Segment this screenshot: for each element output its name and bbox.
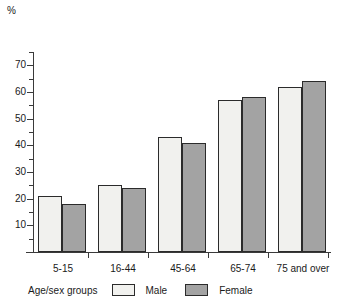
legend-label: Male: [146, 285, 168, 296]
y-tick-minor: [29, 105, 34, 106]
y-tick-major: [27, 225, 34, 226]
plot-area: 10203040506070 5-1516-4445-6465-7475 and…: [0, 0, 342, 306]
y-tick-major: [27, 199, 34, 200]
bar-chart: % 10203040506070 5-1516-4445-6465-7475 a…: [0, 0, 342, 306]
bar-male-65-74: [218, 100, 242, 252]
y-tick-minor: [29, 132, 34, 133]
y-tick-label: 30: [2, 167, 26, 177]
bar-female-16-44: [122, 188, 146, 252]
bar-male-16-44: [98, 185, 122, 252]
y-tick-label: 40: [2, 140, 26, 150]
legend-label: Female: [219, 285, 252, 296]
x-category-label: 16-44: [93, 263, 153, 274]
x-tick-separator: [268, 252, 269, 258]
y-tick-major: [27, 92, 34, 93]
y-tick-minor: [29, 79, 34, 80]
y-axis-line: [33, 52, 34, 253]
y-tick-minor: [29, 52, 34, 53]
x-tick-separator: [88, 252, 89, 258]
y-tick-minor: [29, 239, 34, 240]
y-tick-minor: [29, 159, 34, 160]
y-tick-label: 60: [2, 87, 26, 97]
y-tick-label: 50: [2, 114, 26, 124]
legend-title: Age/sex groups: [28, 285, 98, 296]
legend-swatch-female: [185, 284, 208, 296]
legend-swatch-male: [112, 284, 135, 296]
y-tick-minor: [29, 212, 34, 213]
x-tick-separator: [328, 252, 329, 258]
x-category-label: 75 and over: [273, 263, 333, 274]
y-tick-major: [27, 119, 34, 120]
bar-female-45-64: [182, 143, 206, 252]
y-tick-label: 70: [2, 60, 26, 70]
y-tick-minor: [29, 185, 34, 186]
y-tick-major: [27, 145, 34, 146]
bar-female-65-74: [242, 97, 266, 252]
bar-male-5-15: [38, 196, 62, 252]
y-tick-label: 10: [2, 220, 26, 230]
bar-male-45-64: [158, 137, 182, 252]
legend-item-male: Male: [112, 284, 168, 296]
x-category-label: 65-74: [213, 263, 273, 274]
x-tick-separator: [208, 252, 209, 258]
y-tick-major: [27, 65, 34, 66]
x-category-label: 5-15: [33, 263, 93, 274]
x-axis-line: [26, 252, 331, 253]
bar-female-5-15: [62, 204, 86, 252]
y-tick-label: 20: [2, 194, 26, 204]
legend: Age/sex groups MaleFemale: [28, 283, 271, 297]
bar-female-75-and-over: [302, 81, 326, 252]
x-tick-separator: [148, 252, 149, 258]
bar-male-75-and-over: [278, 87, 302, 252]
legend-item-female: Female: [185, 284, 252, 296]
x-category-label: 45-64: [153, 263, 213, 274]
y-tick-major: [27, 172, 34, 173]
